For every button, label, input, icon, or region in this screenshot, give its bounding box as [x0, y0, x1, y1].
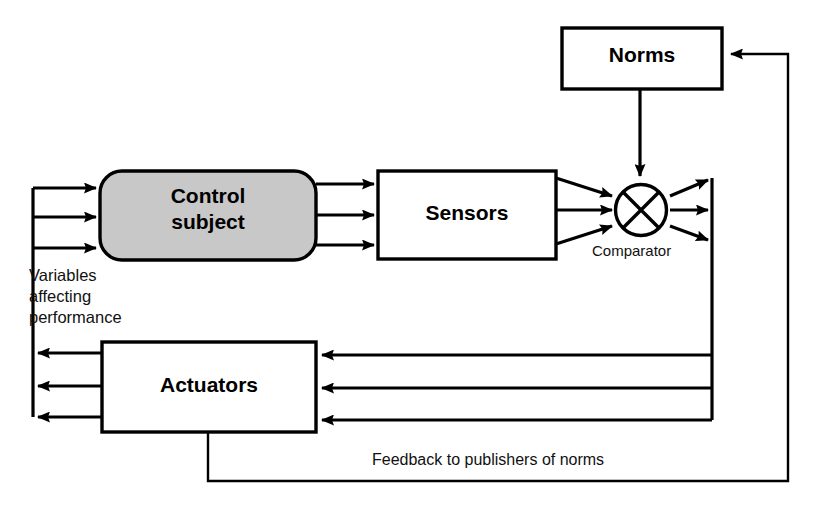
edge-right-spine-to-actuators [322, 355, 712, 420]
edge-actuators-to-left-spine [38, 353, 102, 417]
edge-inputs-to-control-subject [33, 188, 96, 248]
edge-comparator-to-right-spine [670, 180, 708, 240]
edge-control-subject-to-sensors [316, 184, 374, 245]
diagram-canvas: Control subject Sensors Norms Actuators … [0, 0, 819, 511]
sensors-box[interactable] [378, 171, 556, 259]
node-shapes [100, 28, 722, 432]
actuators-box[interactable] [102, 342, 316, 432]
edge-sensors-to-comparator [556, 178, 612, 244]
norms-box[interactable] [562, 28, 722, 89]
comparator-label: Comparator [592, 241, 712, 260]
control-subject-box[interactable] [100, 171, 316, 260]
comparator-symbol[interactable] [616, 185, 667, 236]
feedback-to-publishers-of-norms-label: Feedback to publishers of norms [372, 450, 712, 470]
variables-affecting-performance-label: Variables affecting performance [29, 265, 179, 328]
